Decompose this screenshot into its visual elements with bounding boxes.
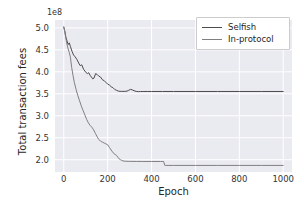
y-tick-label: 3.5 — [35, 89, 49, 99]
y-tick-label: 2.0 — [35, 155, 49, 165]
y-tick-label: 4.0 — [35, 67, 49, 77]
chart-legend: Selfish In-protocol — [196, 17, 290, 50]
x-tick-label: 1000 — [272, 174, 294, 184]
x-axis-label: Epoch — [55, 186, 292, 197]
y-axis-label: Total transaction fees — [17, 18, 28, 186]
legend-label-in-protocol: In-protocol — [228, 34, 274, 44]
legend-line-swatch-selfish — [202, 27, 222, 28]
legend-line-swatch-in-protocol — [202, 39, 222, 40]
y-tick-label: 5.0 — [35, 23, 49, 33]
x-tick-label: 200 — [100, 174, 116, 184]
y-tick-label: 2.5 — [35, 133, 49, 143]
x-tick-label: 800 — [231, 174, 247, 184]
x-tick-label: 600 — [187, 174, 203, 184]
legend-label-selfish: Selfish — [228, 22, 256, 32]
legend-item-in-protocol: In-protocol — [202, 33, 284, 45]
legend-item-selfish: Selfish — [202, 21, 284, 33]
x-tick-label: 400 — [143, 174, 159, 184]
y-tick-label: 3.0 — [35, 111, 49, 121]
y-tick-label: 4.5 — [35, 45, 49, 55]
x-tick-label: 0 — [61, 174, 66, 184]
chart-figure: 1e8 2.02.53.03.54.04.55.0 02004006008001… — [0, 0, 304, 218]
